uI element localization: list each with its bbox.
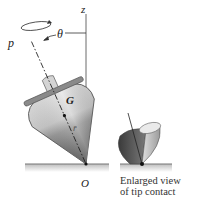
ground-surface-enlarged — [120, 164, 172, 172]
enlarged-view-caption: Enlarged view of tip contact — [120, 175, 181, 197]
spin-rate-label: p — [8, 37, 14, 49]
ground-surface — [25, 164, 109, 172]
center-of-mass-label: G — [66, 95, 74, 106]
contact-point-label: O — [81, 178, 89, 189]
spinning-top-diagram — [0, 0, 199, 204]
theta-angle-arrow — [43, 33, 86, 41]
caption-line-2: of tip contact — [120, 186, 181, 197]
position-vector-label: r̄ — [73, 124, 77, 133]
caption-line-1: Enlarged view — [120, 175, 181, 186]
enlarged-tip-view — [118, 113, 162, 166]
spinning-top-body — [0, 28, 117, 178]
spin-rate-arrow — [21, 20, 52, 32]
angle-label: θ — [57, 28, 63, 40]
z-axis-label: z — [81, 4, 85, 15]
contact-point — [84, 162, 87, 165]
